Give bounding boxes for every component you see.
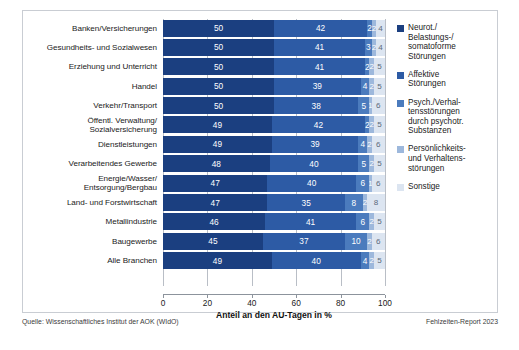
legend-label-line: durch psychotr. [408,117,464,127]
category-label: Erziehung und Unterricht [23,62,163,71]
stacked-bar: 4641625 [163,213,385,230]
bar-segment: 47 [163,175,267,192]
bar-segment-value: 39 [310,139,319,149]
bar-segment-value: 47 [211,198,220,208]
bar-segment-value: 5 [377,217,382,226]
legend-swatch-icon [397,100,404,107]
bar-row: Handel5039425 [23,77,391,95]
bar-segment: 42 [274,20,367,37]
bar-row: Land- und Forstwirtschaft4735828 [23,194,391,212]
legend-item[interactable]: AffektiveStörungen [397,70,491,89]
bar-segment: 49 [163,252,272,269]
bar-segment-value: 40 [307,178,316,188]
legend-item[interactable]: Persönlichkeits-und Verhaltens-störungen [397,144,491,173]
bar-segment: 5 [374,155,385,172]
bar-segment-value: 4 [363,256,368,266]
legend-label-line: störungen [408,164,466,174]
bar-segment: 41 [265,213,356,230]
category-label-line: Verarbeitendes Gewerbe [69,159,157,168]
footer-source: Quelle: Wissenschaftliches Institut der … [22,318,179,325]
category-label: Energie/Wasser/Entsorgung/Bergbau [23,174,163,192]
bar-segment: 50 [163,39,274,56]
bar-segment: 6 [372,175,385,192]
bar-segment-value: 49 [213,139,222,149]
bar-segment-value: 6 [360,217,365,227]
category-label: Banken/Versicherungen [23,24,163,33]
bar-segment: 46 [163,213,265,230]
legend-item[interactable]: Neurot./Belastungs-/somatoformeStörungen [397,23,491,61]
category-label-line: Erziehung und Unterricht [69,62,157,71]
legend-label: Sonstige [408,182,440,192]
legend-item[interactable]: Sonstige [397,182,491,192]
bar-segment-value: 49 [213,256,222,266]
stacked-bar: 45371026 [163,233,385,250]
bar-row: Gesundheits- und Sozialwesen5041324 [23,38,391,56]
category-label: Gesundheits- und Sozialwesen [23,43,163,52]
category-label: Verarbeitendes Gewerbe [23,159,163,168]
category-label: Land- und Forstwirtschaft [23,198,163,207]
footer: Quelle: Wissenschaftliches Institut der … [22,318,498,325]
bar-segment: 5 [374,116,385,133]
bar-segment: 41 [274,58,365,75]
bar-segment-value: 6 [376,237,381,246]
bar-segment-value: 50 [214,81,223,91]
bar-segment-value: 50 [214,62,223,72]
bar-segment: 47 [163,194,267,211]
bar-segment: 35 [267,194,345,211]
category-label-line: Dienstleistungen [98,140,157,149]
stacked-bar: 5041225 [163,58,385,75]
bar-segment: 5 [374,78,385,95]
bar-segment: 6 [372,97,385,114]
bar-segment: 49 [163,136,272,153]
stacked-bar: 5038516 [163,97,385,114]
chart-container: Banken/Versicherungen5042224Gesundheits-… [23,11,497,312]
bar-segment: 5 [374,58,385,75]
bar-segment: 38 [274,97,358,114]
stacked-bar: 4939426 [163,136,385,153]
x-tick-label: 100 [378,298,392,308]
bar-segment: 3 [365,39,372,56]
stacked-bar: 4740616 [163,175,385,192]
legend: Neurot./Belastungs-/somatoformeStörungen… [391,11,497,312]
category-label-line: Öffentl. Verwaltung/ [88,116,158,125]
category-label-line: Handel [132,82,157,91]
bar-segment: 6 [372,136,385,153]
category-label: Öffentl. Verwaltung/Sozialversicherung [23,116,163,134]
bar-segment: 6 [356,175,369,192]
category-label-line: Metallindustrie [106,217,157,226]
x-tick-label: 0 [161,298,166,308]
bar-segment-value: 5 [377,159,382,168]
category-label: Dienstleistungen [23,140,163,149]
bar-row: Dienstleistungen4939426 [23,135,391,153]
bar-segment: 40 [267,175,356,192]
bar-segment: 37 [263,233,345,250]
bar-segment: 5 [358,155,369,172]
chart-frame: Banken/Versicherungen5042224Gesundheits-… [22,10,498,313]
legend-label-line: Störungen [408,79,446,89]
bar-segment-value: 40 [312,256,321,266]
legend-item[interactable]: Psych./Verhal-tensstörungendurch psychot… [397,98,491,136]
category-label-line: Gesundheits- und Sozialwesen [47,43,157,52]
bar-segment: 50 [163,20,274,37]
legend-swatch-icon [397,146,404,153]
bar-segment: 4 [358,136,367,153]
bar-segment-value: 46 [209,217,218,227]
bar-segment-value: 41 [315,42,324,52]
bar-segment: 6 [372,233,385,250]
bar-segment-value: 50 [214,23,223,33]
bar-segment: 39 [274,78,361,95]
category-label: Verkehr/Transport [23,101,163,110]
category-label-line: Baugewerbe [112,237,157,246]
legend-label-line: Persönlichkeits- [408,144,466,154]
bar-segment: 5 [358,97,369,114]
legend-label-line: somatoforme [408,42,456,52]
bar-segment: 48 [163,155,270,172]
legend-label-line: tensstörungen [408,107,464,117]
bar-segment-value: 10 [351,236,360,246]
legend-label-line: Störungen [408,52,456,62]
bar-segment-value: 47 [211,178,220,188]
bar-segment-value: 50 [214,42,223,52]
bar-segment-value: 35 [302,198,311,208]
bar-segment-value: 5 [377,62,382,71]
legend-label-line: und Verhaltens- [408,154,466,164]
